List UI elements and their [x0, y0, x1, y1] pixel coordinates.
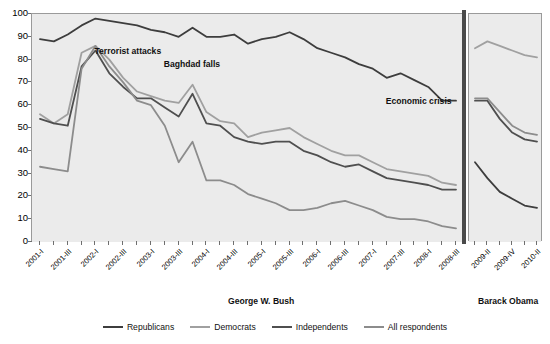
x-axis-tick — [358, 241, 359, 245]
period-label-obama: Barack Obama — [478, 296, 538, 306]
legend-swatch — [364, 326, 384, 328]
legend-swatch — [272, 326, 292, 328]
series-line-independents — [475, 101, 537, 142]
series-line-republicans — [475, 162, 537, 208]
x-axis-tick — [386, 241, 387, 245]
legend-label: All respondents — [388, 322, 447, 332]
legend-item[interactable]: All respondents — [364, 322, 447, 332]
x-axis-tick — [164, 241, 165, 245]
x-axis-tick — [316, 241, 317, 245]
x-axis-tick — [455, 241, 456, 245]
x-axis-tick — [330, 241, 331, 245]
series-line-democrats — [475, 41, 537, 57]
chart-annotation: Terrorist attacks — [94, 46, 161, 56]
legend-label: Republicans — [127, 322, 174, 332]
x-axis-tick — [441, 241, 442, 245]
x-axis-tick — [511, 241, 512, 245]
legend-item[interactable]: Republicans — [103, 322, 174, 332]
x-axis-tick — [178, 241, 179, 245]
x-axis-tick — [108, 241, 109, 245]
y-axis-label: 20 — [2, 190, 28, 200]
chart-annotation: Baghdad falls — [164, 59, 220, 69]
x-axis-tick — [289, 241, 290, 245]
legend-swatch — [103, 326, 123, 328]
legend-item[interactable]: Democrats — [190, 322, 256, 332]
y-axis-label: 70 — [2, 76, 28, 86]
x-axis-tick — [302, 241, 303, 245]
x-axis-tick — [39, 241, 40, 245]
chart-legend: RepublicansDemocratsIndependentsAll resp… — [0, 322, 550, 332]
y-axis-label: 90 — [2, 31, 28, 41]
y-axis-label: 100 — [2, 8, 28, 18]
panel-divider — [462, 10, 466, 244]
series-layer — [469, 14, 543, 242]
y-axis-label: 50 — [2, 122, 28, 132]
series-line-independents — [40, 50, 456, 189]
x-axis-label: 2001-I — [0, 247, 45, 296]
x-axis-tick — [150, 241, 151, 245]
y-axis-label: 40 — [2, 145, 28, 155]
y-axis-label: 0 — [2, 236, 28, 246]
x-axis-tick — [499, 241, 500, 245]
x-axis-label: 2010-II — [494, 247, 543, 296]
x-axis-tick — [536, 241, 537, 245]
x-axis-tick — [94, 241, 95, 245]
series-line-all-respondents — [475, 98, 537, 134]
x-axis-tick — [205, 241, 206, 245]
series-line-democrats — [40, 46, 456, 185]
x-axis-tick — [192, 241, 193, 245]
x-axis-tick — [53, 241, 54, 245]
x-axis-tick — [67, 241, 68, 245]
legend-label: Independents — [296, 322, 348, 332]
x-axis-tick — [400, 241, 401, 245]
x-axis-tick — [372, 241, 373, 245]
x-axis-tick — [261, 241, 262, 245]
legend-swatch — [190, 326, 210, 328]
x-axis-tick — [474, 241, 475, 245]
x-axis-tick — [413, 241, 414, 245]
x-axis-tick — [233, 241, 234, 245]
y-axis-label: 30 — [2, 168, 28, 178]
chart-annotation: Economic crisis — [386, 96, 452, 106]
y-axis-label: 10 — [2, 213, 28, 223]
legend-item[interactable]: Independents — [272, 322, 348, 332]
x-axis-tick — [81, 241, 82, 245]
y-axis-label: 80 — [2, 54, 28, 64]
chart-panel-obama — [468, 13, 542, 241]
x-axis-tick — [219, 241, 220, 245]
x-axis-tick — [344, 241, 345, 245]
y-axis-label: 60 — [2, 99, 28, 109]
x-axis-tick — [122, 241, 123, 245]
x-axis-tick — [247, 241, 248, 245]
x-axis-tick — [524, 241, 525, 245]
x-axis-tick — [136, 241, 137, 245]
legend-label: Democrats — [214, 322, 256, 332]
period-label-bush: George W. Bush — [228, 296, 294, 306]
x-axis-tick — [427, 241, 428, 245]
series-line-republicans — [40, 19, 456, 101]
x-axis-tick — [486, 241, 487, 245]
x-axis-tick — [275, 241, 276, 245]
